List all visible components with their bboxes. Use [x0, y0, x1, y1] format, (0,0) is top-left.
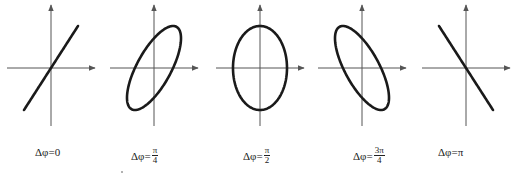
phase-label-4-prefix: Δφ=: [438, 146, 458, 158]
phase-label-0: Δφ=0: [35, 146, 60, 158]
phase-label-1-fraction: π 4: [152, 146, 159, 165]
phase-label-1: Δφ= π 4: [131, 146, 158, 165]
phase-label-2-prefix: Δφ=: [243, 150, 263, 162]
phase-label-3: Δφ= 3π 4: [353, 146, 385, 165]
phase-label-0-value: 0: [55, 146, 61, 158]
panel-p4: [422, 5, 510, 126]
fraction-denominator: 4: [377, 156, 382, 165]
panel-p0: [7, 5, 95, 126]
phase-label-4: Δφ=π: [438, 146, 463, 158]
phase-label-4-value: π: [458, 146, 464, 158]
panel-p2: [216, 5, 304, 126]
phase-label-3-prefix: Δφ=: [353, 150, 373, 162]
panel-p1: [110, 5, 198, 126]
phase-label-1-prefix: Δφ=: [131, 150, 151, 162]
phase-label-3-fraction: 3π 4: [374, 146, 385, 165]
phase-label-2-fraction: π 2: [264, 146, 271, 165]
stray-dot: [121, 171, 123, 173]
fraction-denominator: 4: [153, 156, 158, 165]
panel-p3: [318, 5, 406, 126]
phase-label-0-prefix: Δφ=: [35, 146, 55, 158]
fraction-denominator: 2: [265, 156, 270, 165]
phase-label-2: Δφ= π 2: [243, 146, 270, 165]
